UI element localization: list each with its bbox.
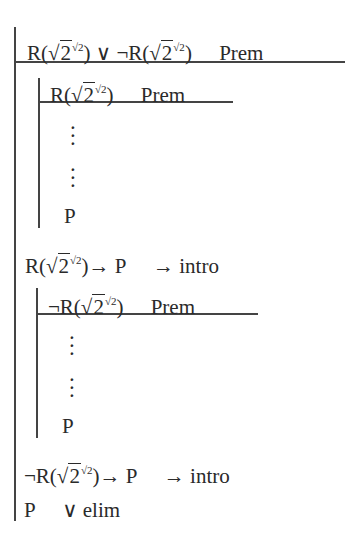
- outer-premise-line: R(√2√2) ∨ ¬R(√2√2) Prem: [27, 34, 263, 66]
- formula: R(√2√2): [50, 83, 114, 107]
- formula: ¬R(√2√2): [48, 295, 123, 319]
- formula: P: [24, 498, 35, 522]
- subproof2-conclusion: P: [62, 413, 74, 439]
- step2-line: ¬R(√2√2)→ P → intro: [24, 457, 230, 489]
- ellipsis-vertical: ···: [67, 334, 77, 358]
- outer-scope-bar: [14, 27, 16, 521]
- final-line: P ∨ elim: [24, 497, 120, 523]
- justification: → intro: [153, 254, 219, 278]
- formula: R(√2√2)→ P: [25, 254, 126, 278]
- justification: ∨ elim: [62, 498, 120, 522]
- ellipsis-vertical: ···: [68, 166, 78, 190]
- subproof1-conclusion: P: [64, 203, 76, 229]
- ellipsis-vertical: ···: [68, 124, 78, 148]
- formula: R(√2√2) ∨ ¬R(√2√2): [27, 41, 192, 65]
- subproof2-scope-bar: [36, 288, 38, 438]
- formula: ¬R(√2√2)→ P: [24, 464, 137, 488]
- subproof2-premise-line: ¬R(√2√2) Prem: [48, 288, 195, 320]
- justification: Prem: [141, 83, 185, 107]
- justification: Prem: [151, 295, 195, 319]
- step1-line: R(√2√2)→ P → intro: [25, 247, 219, 279]
- ellipsis-vertical: ···: [67, 376, 77, 400]
- justification: → intro: [164, 464, 230, 488]
- justification: Prem: [219, 41, 263, 65]
- subproof1-premise-line: R(√2√2) Prem: [50, 76, 185, 108]
